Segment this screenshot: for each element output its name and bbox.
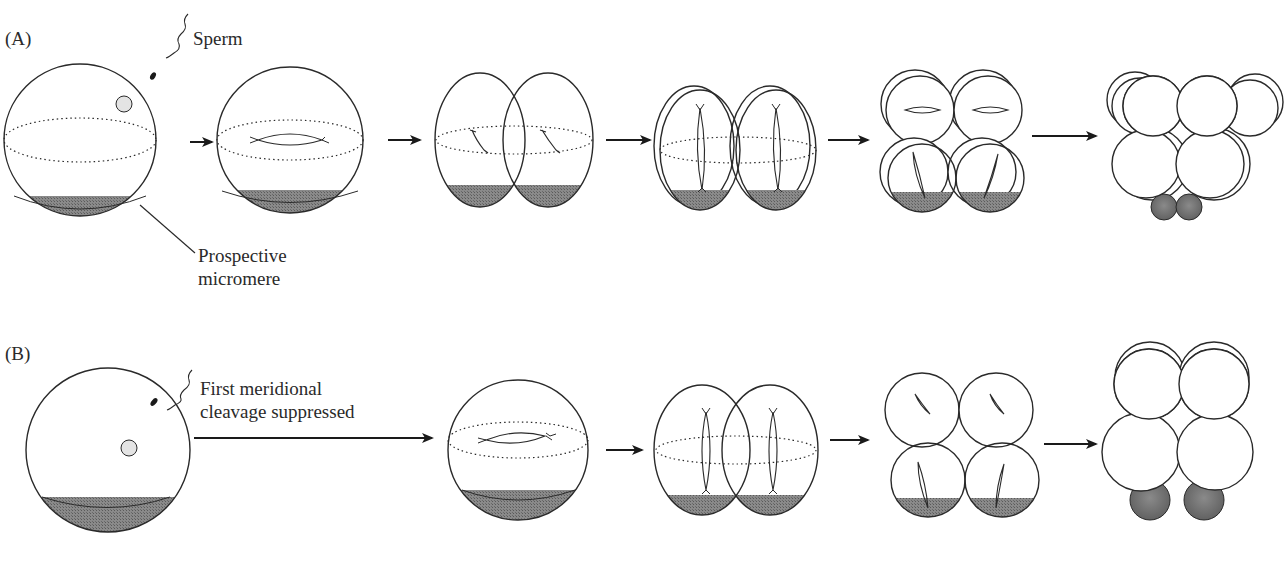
stage-a3-2cell xyxy=(430,73,600,215)
sperm-icon xyxy=(149,14,188,81)
stage-a6-16cell xyxy=(1107,72,1283,220)
stage-a1-egg xyxy=(0,64,170,236)
stage-a4-4cell xyxy=(650,86,830,220)
stage-b5-micromeres xyxy=(1102,342,1253,520)
prospective-micromere-label-line2: micromere xyxy=(198,268,280,290)
micromere-leader-line xyxy=(140,205,195,253)
sperm-label: Sperm xyxy=(193,28,243,50)
stage-b2-spindle xyxy=(440,380,600,530)
panel-a-label: (A) xyxy=(5,28,31,50)
prospective-micromere-label-line1: Prospective xyxy=(198,245,287,267)
stage-b3-2cell xyxy=(650,385,830,525)
stage-a2-spindle xyxy=(210,67,380,230)
stage-b4-4cell xyxy=(880,373,1055,523)
cleavage-suppressed-label-line1: First meridional xyxy=(200,378,322,400)
panel-b-label: (B) xyxy=(5,343,30,365)
stage-b1-egg xyxy=(20,368,200,537)
sperm-icon xyxy=(149,370,192,410)
stage-a5-8cell xyxy=(880,70,1030,217)
cleavage-diagram xyxy=(0,0,1287,587)
cleavage-suppressed-label-line2: cleavage suppressed xyxy=(200,401,355,423)
